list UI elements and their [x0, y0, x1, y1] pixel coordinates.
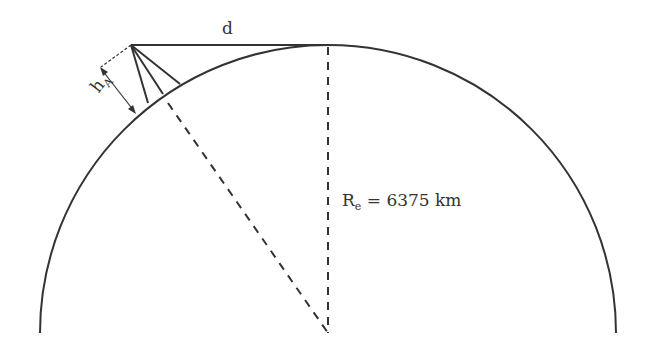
diagram-graphics [0, 0, 653, 350]
radius-value: = 6375 km [361, 190, 461, 210]
ray-2 [131, 45, 163, 94]
ray-1 [131, 45, 148, 103]
radius-label-main: R [342, 190, 355, 210]
height-extension-dashed [101, 45, 131, 67]
arrowhead-bottom [128, 105, 136, 114]
distance-label: d [222, 18, 233, 38]
earth-curvature-diagram: d hA Re = 6375 km [0, 0, 653, 350]
slanted-radius-dashed [168, 103, 328, 333]
radius-label: Re = 6375 km [342, 190, 461, 213]
ray-3 [131, 45, 180, 84]
